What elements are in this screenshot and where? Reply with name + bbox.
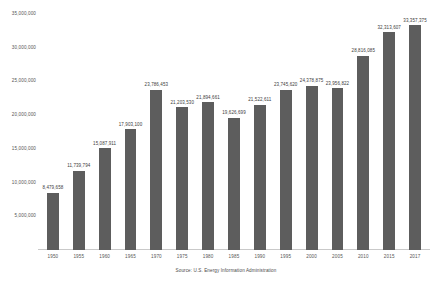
bar	[357, 56, 369, 250]
source-text: Source: U.S. Energy Information Administ…	[158, 268, 277, 273]
bar	[306, 86, 318, 250]
y-tick-label: 35,000,000	[12, 12, 36, 17]
x-axis: 1950195519601965197019751980198519901995…	[40, 252, 428, 264]
bar-series: 8,479,65811,739,79415,087,91117,903,1002…	[40, 14, 428, 250]
bar-value-label: 24,378,875	[300, 79, 324, 84]
x-tick-label: 2000	[306, 255, 317, 260]
x-tick-label: 1950	[48, 255, 59, 260]
x-tick-label: 1955	[73, 255, 84, 260]
x-tick-label: 2010	[358, 255, 369, 260]
y-tick-label: 20,000,000	[12, 113, 36, 118]
bar-value-label: 21,894,661	[196, 96, 220, 101]
bar	[73, 171, 85, 250]
bar	[383, 32, 395, 250]
bar-group: 23,745,620	[280, 14, 292, 250]
bar-value-label: 23,745,620	[274, 83, 298, 88]
bar	[228, 118, 240, 250]
x-tick-label: 1975	[177, 255, 188, 260]
bar-group: 21,894,661	[202, 14, 214, 250]
bar-value-label: 23,786,453	[145, 83, 169, 88]
bar-value-label: 21,203,530	[170, 101, 194, 106]
bar-value-label: 23,956,822	[326, 82, 350, 87]
bar	[409, 25, 421, 250]
source-note: Source: U.S. Energy Information Administ…	[0, 268, 434, 273]
y-tick-label: 25,000,000	[12, 79, 36, 84]
bar-value-label: 11,739,794	[67, 164, 90, 169]
bar-group: 33,357,375	[409, 14, 421, 250]
y-tick-label: 15,000,000	[12, 147, 36, 152]
x-tick-label: 1980	[203, 255, 214, 260]
bar-value-label: 8,479,658	[42, 186, 63, 191]
bar	[125, 129, 137, 250]
x-tick-label: 1965	[125, 255, 136, 260]
bar-group: 28,816,085	[357, 14, 369, 250]
bar-group: 19,626,699	[228, 14, 240, 250]
bar-group: 23,956,822	[332, 14, 344, 250]
bar-value-label: 21,522,611	[248, 98, 271, 103]
x-tick-label: 1960	[99, 255, 110, 260]
bar-group: 23,786,453	[150, 14, 162, 250]
bar-value-label: 17,903,100	[119, 123, 143, 128]
bar-value-label: 19,626,699	[222, 111, 246, 116]
bar	[280, 90, 292, 250]
x-tick-label: 1985	[229, 255, 240, 260]
bar-group: 17,903,100	[125, 14, 137, 250]
bar-group: 24,378,875	[306, 14, 318, 250]
bar	[202, 102, 214, 250]
bar	[150, 90, 162, 250]
bar-group: 21,522,611	[254, 14, 266, 250]
bar-group: 21,203,530	[176, 14, 188, 250]
bar-group: 11,739,794	[73, 14, 85, 250]
bar-group: 32,313,607	[383, 14, 395, 250]
x-tick-label: 1990	[254, 255, 265, 260]
bar-group: 8,479,658	[47, 14, 59, 250]
bar	[332, 88, 344, 250]
bar	[254, 105, 266, 250]
bar-value-label: 28,816,085	[352, 49, 376, 54]
bar-value-label: 33,357,375	[403, 19, 427, 24]
x-tick-label: 2005	[332, 255, 343, 260]
y-tick-label: 5,000,000	[14, 214, 36, 219]
plot-area: 8,479,65811,739,79415,087,91117,903,1002…	[40, 14, 428, 250]
bar-chart: 5,000,00010,000,00015,000,00020,000,0002…	[0, 0, 434, 288]
x-tick-label: 1970	[151, 255, 162, 260]
bar	[99, 148, 111, 250]
bar-group: 15,087,911	[99, 14, 111, 250]
y-tick-label: 30,000,000	[12, 45, 36, 50]
y-axis: 5,000,00010,000,00015,000,00020,000,0002…	[0, 14, 40, 250]
bar	[176, 107, 188, 250]
x-tick-label: 1995	[280, 255, 291, 260]
bar-value-label: 32,313,607	[377, 26, 401, 31]
y-tick-label: 10,000,000	[12, 180, 36, 185]
bar-value-label: 15,087,911	[93, 142, 116, 147]
x-tick-label: 2017	[410, 255, 421, 260]
x-tick-label: 2015	[384, 255, 395, 260]
bar	[47, 193, 59, 250]
